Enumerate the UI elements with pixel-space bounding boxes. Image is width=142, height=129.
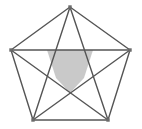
- vertex-marker-right: [128, 48, 131, 51]
- pentagram-figure: [0, 0, 142, 129]
- pentagram-diagram: [0, 0, 142, 129]
- vertex-marker-top: [68, 5, 71, 8]
- vertex-marker-left: [9, 48, 12, 51]
- vertex-marker-bottom-left: [31, 118, 34, 121]
- vertex-marker-bottom-right: [106, 118, 109, 121]
